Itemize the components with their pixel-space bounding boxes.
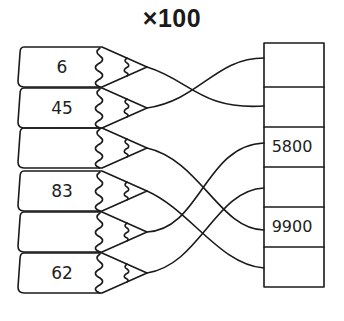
pencil-5 — [18, 212, 147, 252]
answer-column — [264, 43, 324, 287]
pencil-4-number: 83 — [32, 181, 92, 201]
answer-column-border — [264, 43, 324, 287]
pencil-6-number: 62 — [32, 263, 92, 283]
connection-line-45-to-box-1 — [147, 58, 264, 108]
connection-line-blank5-to-box-3 — [147, 143, 264, 232]
connection-line-blank3-to-box-5 — [147, 148, 264, 230]
pencil-2-number: 45 — [32, 98, 92, 118]
answer-box-5: 9900 — [262, 217, 322, 237]
pencil-3 — [18, 128, 147, 168]
connection-line-6-to-box-2 — [147, 67, 264, 106]
answer-box-3: 5800 — [262, 137, 322, 157]
pencil-1-number: 6 — [32, 57, 92, 77]
